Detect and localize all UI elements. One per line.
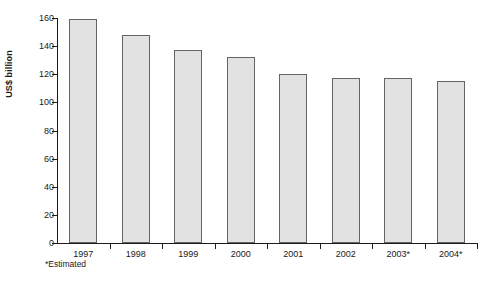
x-axis-tick-mark xyxy=(372,243,373,249)
x-axis-tick-label: 2004* xyxy=(439,250,463,259)
x-axis-tick-mark xyxy=(215,243,216,249)
y-axis-tick-label: 60 xyxy=(44,154,54,163)
y-axis-tick-label: 140 xyxy=(39,42,54,51)
chart-footnote: *Estimated xyxy=(45,260,86,269)
x-axis-tick-mark xyxy=(477,243,478,249)
y-axis-tick-label: 120 xyxy=(39,70,54,79)
y-axis-tick-label: 40 xyxy=(44,182,54,191)
x-axis-tick-label: 2002 xyxy=(336,250,356,259)
x-axis-tick-label: 1999 xyxy=(178,250,198,259)
y-axis-line xyxy=(57,18,58,243)
bar-2003-est xyxy=(384,78,412,243)
y-axis-tick-label: 100 xyxy=(39,98,54,107)
x-axis-tick-mark xyxy=(320,243,321,249)
x-axis-tick-mark xyxy=(267,243,268,249)
x-axis-tick-label: 1997 xyxy=(73,250,93,259)
x-axis-tick-label: 2001 xyxy=(283,250,303,259)
x-axis-tick-label: 1998 xyxy=(126,250,146,259)
x-axis-tick-mark xyxy=(162,243,163,249)
x-axis-tick-mark xyxy=(110,243,111,249)
bar-1998 xyxy=(122,35,150,243)
bar-2002 xyxy=(332,78,360,243)
bar-1997 xyxy=(69,19,97,243)
y-axis-tick-label: 80 xyxy=(44,126,54,135)
bar-chart-figure: US$ billion 020406080100120140160 199719… xyxy=(0,0,502,282)
x-axis-tick-mark xyxy=(425,243,426,249)
x-axis-tick-label: 2000 xyxy=(231,250,251,259)
plot-area: 020406080100120140160 199719981999200020… xyxy=(57,18,477,243)
y-axis-tick-label: 20 xyxy=(44,210,54,219)
y-axis-tick-label: 160 xyxy=(39,14,54,23)
bar-2004-est xyxy=(437,81,465,243)
y-axis-tick-label: 0 xyxy=(49,239,54,248)
y-axis-title: US$ billion xyxy=(4,24,14,124)
x-axis-tick-label: 2003* xyxy=(386,250,410,259)
bar-2000 xyxy=(227,57,255,243)
bar-2001 xyxy=(279,74,307,243)
bar-1999 xyxy=(174,50,202,243)
